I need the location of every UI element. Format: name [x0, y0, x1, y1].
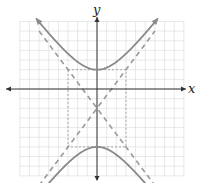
x-axis-arrow-right-icon: [181, 87, 186, 92]
x-axis-arrow-left-icon: [6, 87, 11, 92]
x-axis-label: x: [188, 81, 196, 96]
grid: [20, 21, 184, 175]
hyperbola-graph: x y: [0, 0, 200, 183]
y-axis-arrow-up-icon: [95, 17, 100, 22]
y-axis-arrow-down-icon: [95, 176, 100, 181]
y-axis-label: y: [92, 2, 101, 17]
